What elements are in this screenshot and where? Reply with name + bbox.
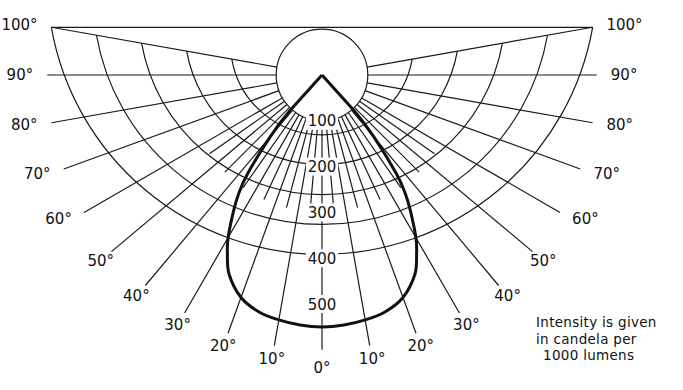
angle-label-left-20: 20° xyxy=(210,337,237,355)
radial--100 xyxy=(51,27,277,67)
radial-80 xyxy=(367,83,593,123)
angle-label-right-40: 40° xyxy=(494,287,521,305)
radial-20 xyxy=(338,118,416,333)
ring-label-300: 300 xyxy=(308,204,337,222)
angle-label-right-60: 60° xyxy=(572,210,599,228)
angle-label-right-100: 100° xyxy=(606,16,642,34)
units-note-line-1: Intensity is given xyxy=(536,314,657,331)
ring-label-400: 400 xyxy=(308,250,337,268)
angle-label-right-80: 80° xyxy=(606,116,633,134)
minor-radial--25 xyxy=(264,117,303,200)
minor-radial-55 xyxy=(360,101,435,154)
minor-radial-45 xyxy=(354,107,419,172)
minor-radial--35 xyxy=(243,113,296,188)
minor-radial--55 xyxy=(209,101,284,154)
angle-label-left-80: 80° xyxy=(11,116,38,134)
units-note: Intensity is given in candela per 1000 l… xyxy=(536,314,657,364)
units-note-line-3: 1000 lumens xyxy=(536,347,657,364)
radial--50 xyxy=(111,104,286,251)
angle-label-right-50: 50° xyxy=(530,252,557,270)
minor-radial-35 xyxy=(348,113,401,188)
angle-label-right-30: 30° xyxy=(453,316,480,334)
radial--20 xyxy=(228,118,306,333)
ring-label-200: 200 xyxy=(308,158,337,176)
minor-radial--45 xyxy=(225,107,290,172)
angle-label-left-100: 100° xyxy=(1,16,37,34)
angle-label-left-10: 10° xyxy=(259,350,286,368)
radial--80 xyxy=(51,83,277,123)
angle-label-right-90: 90° xyxy=(611,66,638,84)
angle-label-left-40: 40° xyxy=(123,287,150,305)
radial-70 xyxy=(365,91,580,169)
angle-label-left-60: 60° xyxy=(45,210,72,228)
angle-label-right-10: 10° xyxy=(359,350,386,368)
units-note-line-2: in candela per xyxy=(536,331,657,348)
radial-50 xyxy=(357,104,532,251)
angle-label-left-30: 30° xyxy=(164,316,191,334)
angle-label-right-70: 70° xyxy=(593,165,620,183)
ring-label-500: 500 xyxy=(308,296,337,314)
angle-label-left-50: 50° xyxy=(87,252,114,270)
angle-label-left-70: 70° xyxy=(24,165,51,183)
angle-label-right-20: 20° xyxy=(407,337,434,355)
ring-label-100: 100 xyxy=(308,112,337,130)
angle-label-right-0: 0° xyxy=(313,359,330,377)
minor-radial-25 xyxy=(341,117,380,200)
radial-100 xyxy=(367,27,593,67)
angle-label-left-90: 90° xyxy=(7,66,34,84)
radial--70 xyxy=(64,91,279,169)
